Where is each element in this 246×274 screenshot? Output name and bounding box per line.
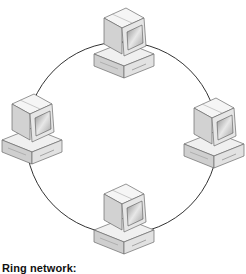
computer-left-icon [2,94,62,164]
computer-bottom-icon [94,184,154,254]
computer-right-icon [184,98,244,168]
computer-top-icon [94,8,154,78]
diagram-caption: Ring network: [2,262,77,274]
ring-network-diagram [0,0,246,274]
